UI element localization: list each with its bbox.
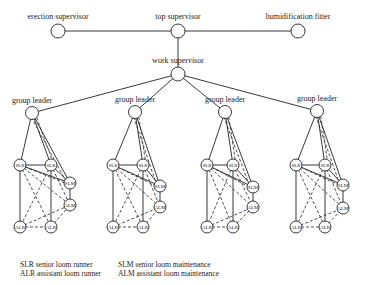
slr-node: SLR bbox=[14, 159, 26, 171]
slm-node: SLM bbox=[247, 181, 259, 193]
node-circle bbox=[51, 24, 65, 38]
node-circle bbox=[219, 106, 232, 119]
edge-work-group-3 bbox=[178, 74, 225, 112]
node-label: humidification fitter bbox=[266, 12, 331, 21]
solid-edge bbox=[207, 112, 225, 165]
node-circle bbox=[26, 107, 39, 120]
dashed-edge bbox=[35, 113, 54, 165]
node-label: group leader bbox=[12, 96, 53, 105]
slr-node: SLR bbox=[45, 159, 57, 171]
alm-node: ALM bbox=[154, 201, 166, 213]
node-label: SLR bbox=[291, 163, 301, 168]
node-label: ALR bbox=[228, 225, 239, 230]
alr-node: ALR bbox=[290, 221, 302, 233]
node-label: ALM bbox=[154, 205, 166, 210]
alm-node: ALM bbox=[247, 201, 259, 213]
node-label: SLR bbox=[46, 163, 56, 168]
node-label: ALM bbox=[64, 203, 76, 208]
node-label: SLR bbox=[15, 163, 25, 168]
node-label: ALR bbox=[202, 225, 213, 230]
slm-node: SLM bbox=[154, 180, 166, 192]
legend-alm: ALM assistant loom maintenance bbox=[118, 269, 219, 278]
group-leader-node-4: group leader bbox=[297, 94, 338, 118]
solid-edge bbox=[32, 113, 51, 165]
node-label: work supervisor bbox=[152, 56, 204, 65]
node-label: ALR bbox=[138, 225, 149, 230]
alr-node: ALR bbox=[45, 221, 57, 233]
slr-node: SLR bbox=[290, 159, 302, 171]
solid-edge bbox=[20, 113, 32, 165]
legend-alr: ALR assistant loom runner bbox=[20, 269, 101, 278]
top-supervisor-node: top supervisor bbox=[155, 12, 201, 38]
slr-node: SLR bbox=[227, 159, 239, 171]
node-label: SLR bbox=[228, 163, 238, 168]
organization-diagram: erection supervisortop supervisorhumidif… bbox=[0, 0, 365, 285]
node-label: erection supervisor bbox=[27, 12, 88, 21]
node-label: ALR bbox=[46, 225, 57, 230]
alm-node: ALM bbox=[337, 202, 349, 214]
dashed-edge bbox=[20, 165, 70, 205]
legend-slm: SLM senior loom maintenance bbox=[118, 260, 219, 269]
node-label: SLR bbox=[320, 163, 330, 168]
erection-supervisor-node: erection supervisor bbox=[27, 12, 88, 38]
solid-edge bbox=[296, 111, 317, 165]
alr-node: ALR bbox=[107, 221, 119, 233]
node-label: SLM bbox=[155, 184, 166, 189]
node-label: SLR bbox=[108, 163, 118, 168]
node-label: ALR bbox=[291, 225, 302, 230]
node-circle bbox=[129, 106, 142, 119]
dashed-edge bbox=[113, 207, 160, 227]
node-label: SLR bbox=[138, 163, 148, 168]
slr-node: SLR bbox=[137, 159, 149, 171]
node-circle bbox=[311, 105, 324, 118]
alr-node: ALR bbox=[319, 221, 331, 233]
node-label: SLM bbox=[65, 181, 76, 186]
node-label: group leader bbox=[205, 95, 246, 104]
slr-node: SLR bbox=[107, 159, 119, 171]
node-label: SLM bbox=[248, 185, 259, 190]
group-leader-node-2: group leader bbox=[115, 95, 156, 119]
node-label: ALM bbox=[337, 206, 349, 211]
node-label: ALR bbox=[320, 225, 331, 230]
node-label: group leader bbox=[115, 95, 156, 104]
dashed-edge bbox=[296, 165, 343, 208]
node-label: group leader bbox=[297, 94, 338, 103]
alr-node: ALR bbox=[14, 221, 26, 233]
nodes: erection supervisortop supervisorhumidif… bbox=[12, 12, 349, 233]
solid-edge bbox=[113, 112, 135, 165]
slm-node: SLM bbox=[64, 177, 76, 189]
node-circle bbox=[171, 67, 185, 81]
solid-edge bbox=[317, 111, 343, 185]
humidification-fitter-node: humidification fitter bbox=[266, 12, 331, 38]
node-label: top supervisor bbox=[155, 12, 201, 21]
slr-node: SLR bbox=[319, 159, 331, 171]
group-leader-node-1: group leader bbox=[12, 96, 53, 120]
alr-node: ALR bbox=[201, 221, 213, 233]
node-label: ALR bbox=[108, 225, 119, 230]
node-label: ALM bbox=[247, 205, 259, 210]
group-leader-node-3: group leader bbox=[205, 95, 246, 119]
legend-right: SLM senior loom maintenance ALM assistan… bbox=[118, 260, 219, 278]
alr-node: ALR bbox=[227, 221, 239, 233]
slr-node: SLR bbox=[201, 159, 213, 171]
slm-node: SLM bbox=[337, 179, 349, 191]
legend: SLR senior loom runner ALR assistant loo… bbox=[20, 260, 101, 278]
alm-node: ALM bbox=[64, 199, 76, 211]
dashed-edge bbox=[20, 205, 70, 227]
dashed-edge bbox=[113, 165, 160, 188]
edge-work-group-4 bbox=[178, 74, 317, 111]
node-label: SLM bbox=[338, 183, 349, 188]
node-circle bbox=[291, 24, 305, 38]
node-label: SLR bbox=[202, 163, 212, 168]
dashed-edge bbox=[222, 112, 250, 187]
node-label: ALR bbox=[15, 225, 26, 230]
legend-slr: SLR senior loom runner bbox=[20, 260, 101, 269]
node-circle bbox=[171, 24, 185, 38]
dashed-edge bbox=[113, 165, 160, 207]
work-supervisor-node: work supervisor bbox=[152, 56, 204, 81]
solid-edge bbox=[135, 112, 160, 186]
alr-node: ALR bbox=[137, 221, 149, 233]
